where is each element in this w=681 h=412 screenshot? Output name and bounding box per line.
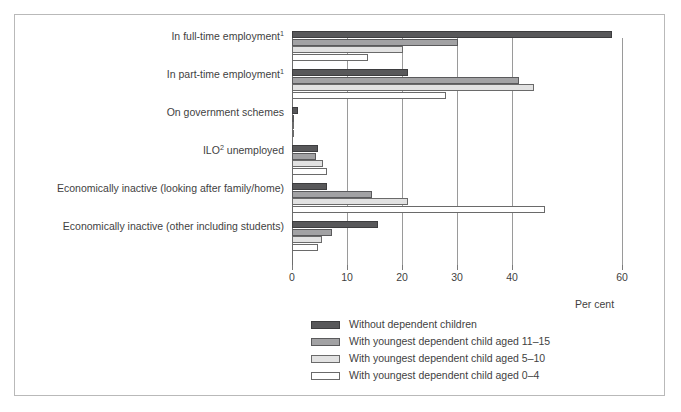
x-tick-label-30: 30: [451, 271, 463, 283]
bar: [292, 168, 327, 175]
legend-label: With youngest dependent child aged 5–10: [349, 351, 545, 366]
x-tick-10: [347, 265, 348, 270]
legend-swatch: [311, 338, 340, 346]
legend-label: With youngest dependent child aged 0–4: [349, 368, 539, 383]
x-tick-20: [402, 265, 403, 270]
gridline-40: [512, 38, 513, 265]
legend-swatch: [311, 355, 340, 363]
bar: [292, 221, 378, 228]
x-tick-60: [622, 265, 623, 270]
bar: [292, 115, 294, 122]
bar: [292, 107, 298, 114]
category-label-0: In full-time employment1: [24, 31, 284, 42]
legend-label: With youngest dependent child aged 11–15: [349, 334, 550, 349]
bar: [292, 130, 294, 137]
x-tick-0: [292, 265, 293, 270]
bars-container: [292, 38, 622, 265]
category-label-4: Economically inactive (looking after fam…: [24, 183, 284, 194]
chart-figure: In full-time employment1In part-time emp…: [14, 14, 665, 396]
category-label-3: ILO2 unemployed: [24, 145, 284, 156]
bar: [292, 122, 294, 129]
bar: [292, 198, 408, 205]
gridline-60: [622, 38, 623, 265]
x-axis: 01020304060: [292, 265, 622, 295]
x-tick-label-10: 10: [341, 271, 353, 283]
bar: [292, 191, 372, 198]
gridline-30: [457, 38, 458, 265]
legend-swatch: [311, 372, 340, 380]
bar: [292, 31, 612, 38]
bar: [292, 153, 316, 160]
plot-area: In full-time employment1In part-time emp…: [15, 15, 666, 275]
bar: [292, 46, 403, 53]
bar: [292, 183, 327, 190]
x-tick-40: [512, 265, 513, 270]
bar: [292, 54, 368, 61]
category-label-1: In part-time employment1: [24, 69, 284, 80]
bar: [292, 160, 323, 167]
bar: [292, 69, 408, 76]
bar: [292, 206, 545, 213]
bar: [292, 77, 519, 84]
x-tick-label-0: 0: [289, 271, 295, 283]
x-tick-label-20: 20: [396, 271, 408, 283]
bar: [292, 145, 318, 152]
x-tick-label-60: 60: [616, 271, 628, 283]
x-tick-label-40: 40: [506, 271, 518, 283]
category-label-2: On government schemes: [24, 107, 284, 118]
bar: [292, 244, 318, 251]
bar: [292, 92, 446, 99]
x-axis-title: Per cent: [575, 298, 614, 310]
legend-swatch: [311, 321, 340, 329]
bar: [292, 229, 332, 236]
x-tick-30: [457, 265, 458, 270]
legend-label: Without dependent children: [349, 317, 477, 332]
bar: [292, 39, 458, 46]
bar: [292, 84, 534, 91]
bar: [292, 236, 322, 243]
category-label-5: Economically inactive (other including s…: [24, 221, 284, 232]
